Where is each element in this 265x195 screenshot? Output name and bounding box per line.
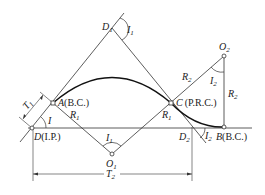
label-angle-i: I xyxy=(47,115,52,126)
label-r1-right: R1 xyxy=(161,109,172,122)
curve-diagram: T1 T2 D(I.P.) A(B.C.) D1 C(P.R.C.) O1 O2… xyxy=(0,0,265,195)
t2-arrow-right xyxy=(187,173,192,176)
label-c-prc: C(P.R.C.) xyxy=(176,97,217,109)
angle-i2-top-arc xyxy=(211,67,224,72)
point-c xyxy=(169,101,173,105)
label-angle-i2-bottom: I2 xyxy=(204,130,212,143)
label-d-ip: D(I.P.) xyxy=(33,131,61,143)
point-o1 xyxy=(110,152,114,156)
point-b xyxy=(222,125,226,129)
t1-label: T1 xyxy=(20,97,36,112)
label-b-bc: B(B.C.) xyxy=(216,131,247,143)
tangent-line-2 xyxy=(112,28,206,143)
t1-arrow-2 xyxy=(40,95,43,100)
label-d1: D1 xyxy=(101,21,113,34)
label-d2: D2 xyxy=(178,131,190,144)
point-d xyxy=(30,126,34,130)
point-a xyxy=(51,101,55,105)
radius-line-a-o1 xyxy=(53,103,112,154)
label-angle-i1-bottom: I1 xyxy=(105,132,113,145)
t1-arrow-1 xyxy=(23,114,26,119)
point-o2 xyxy=(222,54,226,58)
label-a-bc: A(B.C.) xyxy=(57,97,89,109)
label-r1-left: R1 xyxy=(69,109,80,122)
t2-arrow-left xyxy=(33,173,38,176)
label-r2-diagonal: R2 xyxy=(181,71,192,84)
label-angle-i2-top: I2 xyxy=(209,75,217,88)
angle-i-arc xyxy=(41,117,46,128)
t1-extension-1 xyxy=(19,117,32,128)
label-o2: O2 xyxy=(219,41,230,54)
label-r2-vertical: R2 xyxy=(227,88,238,101)
